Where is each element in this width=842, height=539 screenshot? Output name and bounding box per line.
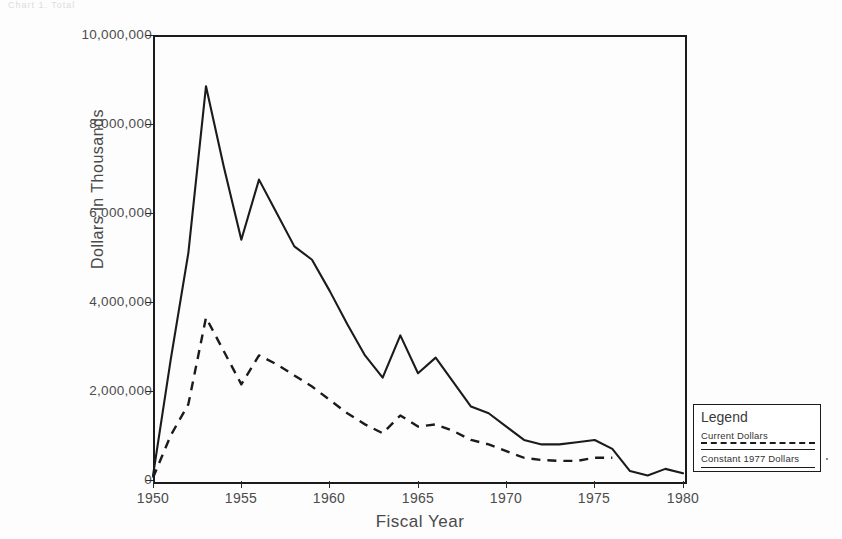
y-tick-mark-8m bbox=[146, 124, 153, 125]
y-tick-mark-0 bbox=[146, 480, 153, 481]
x-tick-mark-1975 bbox=[594, 481, 595, 488]
chart-lines bbox=[153, 35, 683, 480]
y-tick-mark-2m bbox=[146, 391, 153, 392]
legend-underline bbox=[701, 467, 815, 468]
x-axis-title: Fiscal Year bbox=[280, 512, 560, 532]
x-tick-mark-1955 bbox=[241, 481, 242, 488]
y-tick-label-2m: 2,000,000 bbox=[32, 383, 152, 398]
legend-label-current-dollars: Current Dollars bbox=[701, 430, 768, 441]
legend: Legend Current Dollars Constant 1977 Dol… bbox=[693, 404, 821, 472]
x-tick-mark-1960 bbox=[329, 481, 330, 488]
legend-swatch-constant-dollars bbox=[701, 442, 815, 444]
stray-speck bbox=[826, 458, 828, 460]
x-tick-mark-1980 bbox=[683, 481, 684, 488]
x-tick-label-1955: 1955 bbox=[206, 490, 276, 506]
x-tick-mark-1970 bbox=[506, 481, 507, 488]
y-axis-title: Dollars in Thousands bbox=[89, 39, 107, 339]
cut-off-header-text: Chart 1. Total bbox=[8, 0, 208, 10]
y-tick-mark-6m bbox=[146, 213, 153, 214]
chart-page: Chart 1. Total 0 2,000,000 4,000,000 6,0… bbox=[0, 0, 842, 539]
series-line-current-dollars bbox=[153, 86, 683, 475]
y-tick-mark-10m bbox=[146, 35, 153, 36]
x-tick-mark-1965 bbox=[418, 481, 419, 488]
x-tick-label-1970: 1970 bbox=[471, 490, 541, 506]
series-line-constant-dollars bbox=[153, 318, 612, 478]
legend-label-constant-dollars: Constant 1977 Dollars bbox=[701, 453, 799, 464]
legend-title: Legend bbox=[701, 409, 748, 425]
x-tick-label-1980: 1980 bbox=[648, 490, 718, 506]
x-tick-mark-1950 bbox=[153, 481, 154, 488]
x-tick-label-1960: 1960 bbox=[294, 490, 364, 506]
x-tick-label-1965: 1965 bbox=[383, 490, 453, 506]
x-tick-label-1950: 1950 bbox=[118, 490, 188, 506]
y-tick-label-0: 0 bbox=[32, 472, 152, 487]
y-tick-mark-4m bbox=[146, 302, 153, 303]
legend-swatch-current-dollars bbox=[701, 449, 815, 450]
x-tick-label-1975: 1975 bbox=[559, 490, 629, 506]
